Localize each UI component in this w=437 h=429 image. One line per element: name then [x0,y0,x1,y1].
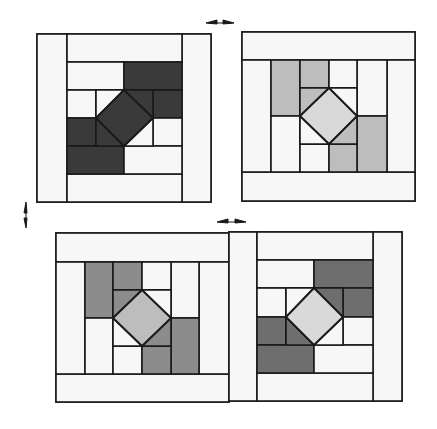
piece [343,317,373,345]
piece-dark [67,118,96,146]
piece-medium [142,346,171,374]
piece-light-gray [357,116,387,172]
right-strip [182,34,211,202]
block-bottom-left [56,233,229,402]
piece-medium [113,262,142,290]
piece-light-gray [300,60,329,88]
arrow-down-head-icon [24,218,27,228]
piece [257,288,286,317]
piece [153,118,182,146]
right-strip [373,232,402,401]
block-top-right [242,32,415,201]
piece-dark [153,90,182,118]
piece [300,144,329,172]
left-strip [229,232,257,401]
quilt-diagram [0,0,437,429]
left-strip [37,34,67,202]
piece-medium [171,318,199,374]
piece-medium-dark [257,317,286,345]
bottom-band [56,374,229,402]
piece [85,318,113,374]
left-strip [242,60,271,172]
piece [67,62,124,90]
piece [357,60,387,116]
arrow-right-head-icon [223,20,234,24]
piece-dark [124,62,182,90]
top-band [67,34,182,62]
arrow-left-vertical [24,202,27,228]
piece [329,60,357,88]
piece [271,116,300,172]
arrow-up-head-icon [24,202,27,213]
arrow-right-head-icon [235,219,246,223]
piece-light-gray [329,144,357,172]
piece-medium-dark [314,260,373,288]
right-strip [199,262,229,374]
left-strip [56,262,85,374]
arrow-top-horizontal [206,20,234,24]
top-band [257,232,373,260]
right-strip [387,60,415,172]
piece [142,262,171,290]
block-top-left [37,34,211,202]
piece [113,346,142,374]
piece [257,260,314,288]
arrow-left-head-icon [217,219,228,223]
piece-medium-dark [257,345,314,373]
arrow-left-head-icon [206,20,217,24]
piece [171,262,199,318]
bottom-band [67,174,182,202]
piece-dark [67,146,124,174]
top-band [56,233,229,262]
top-band [242,32,415,60]
piece [67,90,96,118]
bottom-band [257,373,373,401]
piece-light-gray [271,60,300,116]
arrow-middle-horizontal [217,219,246,223]
piece-medium [85,262,113,318]
bottom-band [242,172,415,201]
piece [124,146,182,174]
piece [314,345,373,373]
piece-medium-dark [343,288,373,317]
block-bottom-right [229,232,402,401]
